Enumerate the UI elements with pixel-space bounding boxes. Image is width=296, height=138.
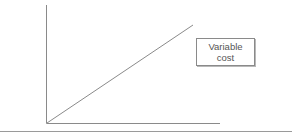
variable-cost-graph bbox=[0, 0, 296, 138]
variable-cost-line bbox=[47, 25, 193, 123]
label-line-2: cost bbox=[217, 52, 234, 63]
variable-cost-label-box: Variable cost bbox=[196, 38, 255, 66]
label-line-1: Variable bbox=[208, 41, 242, 52]
